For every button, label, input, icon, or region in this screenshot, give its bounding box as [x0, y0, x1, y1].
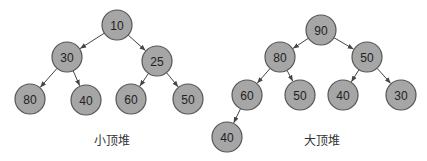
node-label: 60 — [124, 93, 138, 107]
edge-arrow — [40, 68, 57, 87]
edge-arrow — [80, 33, 104, 49]
heap-node: 25 — [142, 46, 172, 76]
edge-arrow — [377, 68, 391, 83]
heap-node: 40 — [328, 80, 358, 110]
node-label: 80 — [23, 93, 37, 107]
node-label: 40 — [220, 131, 234, 145]
node-label: 30 — [60, 51, 74, 65]
heap-node: 30 — [52, 42, 82, 72]
node-label: 10 — [110, 19, 124, 33]
min-heap-caption: 小顶堆 — [94, 134, 130, 148]
edge-arrow — [73, 71, 80, 86]
heap-node: 80 — [265, 42, 295, 72]
node-label: 80 — [273, 51, 287, 65]
heap-node: 50 — [285, 80, 315, 110]
heap-node: 10 — [102, 10, 132, 40]
edge-arrow — [234, 109, 241, 124]
heap-node: 60 — [232, 80, 262, 110]
edge-arrow — [293, 38, 309, 48]
heap-node: 40 — [212, 122, 242, 152]
heap-node: 80 — [15, 84, 45, 114]
node-label: 60 — [240, 89, 254, 103]
node-label: 50 — [293, 89, 307, 103]
edge-arrow — [351, 70, 359, 82]
heap-node: 50 — [173, 84, 203, 114]
node-label: 90 — [314, 24, 328, 38]
heap-node: 90 — [306, 15, 336, 45]
edge-arrow — [140, 73, 149, 86]
node-label: 50 — [360, 51, 374, 65]
heap-node: 60 — [116, 84, 146, 114]
max-heap-caption: 大顶堆 — [304, 134, 340, 148]
edge-arrow — [334, 38, 354, 50]
heap-diagram: 103025804060509080506050403040 小顶堆大顶堆 — [0, 0, 427, 161]
heap-node: 40 — [71, 85, 101, 115]
heap-node: 30 — [386, 80, 416, 110]
node-label: 50 — [181, 93, 195, 107]
node-label: 40 — [336, 89, 350, 103]
edge-arrow — [167, 73, 179, 87]
node-label: 30 — [394, 89, 408, 103]
node-label: 25 — [150, 55, 164, 69]
edge-arrow — [257, 68, 270, 83]
edge-arrow — [287, 70, 293, 81]
edge-arrow — [128, 35, 145, 51]
heap-node: 50 — [352, 42, 382, 72]
nodes-layer: 103025804060509080506050403040 — [15, 10, 416, 152]
node-label: 40 — [79, 94, 93, 108]
